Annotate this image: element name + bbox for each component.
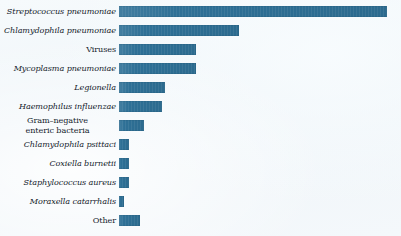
chart-row: Haemophilus influenzae xyxy=(0,97,401,116)
bar xyxy=(119,25,239,36)
bar xyxy=(119,139,129,150)
chart-row: Gram–negativeenteric bacteria xyxy=(0,116,401,135)
bar-category-label: Viruses xyxy=(0,45,118,54)
bar-category-label: Chlamydophila psittaci xyxy=(0,140,118,149)
chart-row: Legionella xyxy=(0,78,401,97)
bar-track xyxy=(118,2,401,21)
chart-row: Mycoplasma pneumoniae xyxy=(0,59,401,78)
bar-track xyxy=(118,173,401,192)
bar xyxy=(119,6,387,17)
bar-track xyxy=(118,78,401,97)
bar xyxy=(119,63,196,74)
bar xyxy=(119,82,165,93)
chart-row: Moraxella catarrhalis xyxy=(0,192,401,211)
figure-caption xyxy=(6,226,206,235)
chart-row: Chlamydophila psittaci xyxy=(0,135,401,154)
bar-track xyxy=(118,21,401,40)
chart-row: Chlamydophila pneumoniae xyxy=(0,21,401,40)
bar-category-label: Chlamydophila pneumoniae xyxy=(0,26,118,35)
chart-plot-area: Streptococcus pneumoniaeChlamydophila pn… xyxy=(0,0,401,226)
bar-category-label: Streptococcus pneumoniae xyxy=(0,7,118,16)
bar-track xyxy=(118,40,401,59)
bar-category-label: Other xyxy=(0,216,118,225)
chart-row: Coxiella burnetii xyxy=(0,154,401,173)
bar-track xyxy=(118,135,401,154)
bar-track xyxy=(118,192,401,211)
chart-row: Staphylococcus aureus xyxy=(0,173,401,192)
bar-category-label: Mycoplasma pneumoniae xyxy=(0,64,118,73)
bar xyxy=(119,158,129,169)
chart-row: Viruses xyxy=(0,40,401,59)
bar xyxy=(119,120,144,131)
bar xyxy=(119,44,196,55)
chart-row: Streptococcus pneumoniae xyxy=(0,2,401,21)
bar xyxy=(119,101,162,112)
bar-chart-figure: Streptococcus pneumoniaeChlamydophila pn… xyxy=(0,0,401,236)
bar-category-label: Moraxella catarrhalis xyxy=(0,197,118,206)
bar-track xyxy=(118,59,401,78)
bar-category-label: Coxiella burnetii xyxy=(0,159,118,168)
bar-track xyxy=(118,116,401,135)
bar-track xyxy=(118,154,401,173)
bar-track xyxy=(118,97,401,116)
bar xyxy=(119,177,129,188)
bar-category-label: Staphylococcus aureus xyxy=(0,178,118,187)
bar-category-label: Gram–negativeenteric bacteria xyxy=(0,116,118,134)
bar-category-label: Haemophilus influenzae xyxy=(0,102,118,111)
bar-category-label: Legionella xyxy=(0,83,118,92)
bar xyxy=(119,215,140,226)
bar xyxy=(119,196,124,207)
